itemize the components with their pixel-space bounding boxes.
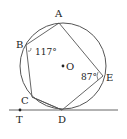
label-B: B [16, 39, 23, 50]
point-T [19, 109, 22, 112]
label-E: E [106, 72, 113, 83]
angle-label-B: 117° [35, 47, 57, 57]
angle-arc-B [28, 48, 31, 51]
pentagon-ABCDE [26, 23, 103, 110]
label-C: C [21, 95, 29, 106]
label-O: O [66, 61, 74, 72]
geometry-diagram: A B C D E T O 117° 87° [0, 0, 127, 139]
segment-CD [32, 97, 62, 110]
label-T: T [16, 114, 23, 125]
center-point-O [62, 65, 65, 68]
angle-arc-E [97, 72, 98, 80]
label-D: D [58, 114, 66, 125]
label-A: A [54, 8, 63, 19]
angle-label-E: 87° [81, 72, 97, 82]
